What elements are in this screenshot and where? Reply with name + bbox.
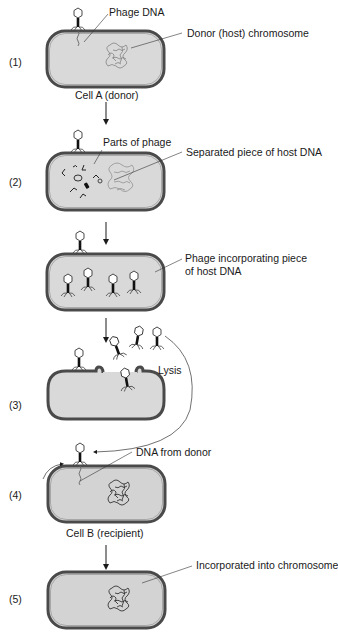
cell-a-donor [47,31,164,87]
label-phage-incorporating-1: Phage incorporating piece [185,252,307,265]
label-cell-a-donor: Cell A (donor) [75,89,139,102]
transduction-diagram [0,0,338,634]
label-dna-from-donor: DNA from donor [136,446,211,459]
phage-icon [71,8,85,31]
step-3 [48,325,192,452]
step-number-2: (2) [9,176,22,188]
released-phage-icon [106,334,127,360]
step-1 [47,8,182,122]
phage-icon [72,348,86,371]
step-2b [47,231,182,340]
label-phage-incorporating-2: of host DNA [185,265,242,278]
step-number-4: (4) [9,489,22,501]
cell-recombinant [48,572,165,628]
cell-step-2 [47,153,164,210]
label-donor-chromosome: Donor (host) chromosome [187,27,309,40]
label-phage-dna: Phage DNA [109,6,164,19]
label-lysis: Lysis [158,364,182,377]
cell-b-recipient [48,466,165,522]
step-number-5: (5) [9,593,22,605]
label-parts-of-phage: Parts of phage [103,136,171,149]
step-5 [48,566,192,628]
label-separated-host-dna: Separated piece of host DNA [186,146,322,159]
released-phage-icon [129,325,147,350]
step-4 [43,443,165,567]
phage-icon [73,231,87,254]
step-number-3: (3) [9,399,22,411]
released-phage-icon [150,327,164,350]
label-incorporated: Incorporated into chromosome [196,559,338,572]
phage-icon [73,443,87,466]
phage-icon [71,130,85,153]
step-number-1: (1) [9,56,22,68]
label-cell-b-recipient: Cell B (recipient) [66,527,144,540]
